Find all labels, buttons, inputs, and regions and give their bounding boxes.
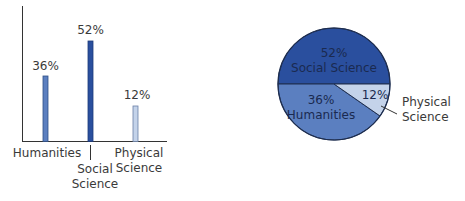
bar-humanities [43,76,48,142]
pie-value-physical-science: 12% [362,88,389,102]
pie-label-physical-line1: Physical [402,95,451,109]
bar-label-humanities: Humanities [13,146,81,160]
pie-value-social-science: 52% [321,46,348,60]
bar-chart: 36% 52% 12% Humanities Social Science Ph… [13,6,167,191]
bar-physical-science [133,106,138,142]
pie-value-humanities: 36% [308,93,335,107]
bar-label-social-line2: Science [72,177,119,191]
bar-label-physical-line2: Science [116,161,163,175]
bar-social-science [88,41,93,142]
pie-label-humanities: Humanities [287,108,355,122]
bar-value-humanities: 36% [32,59,59,73]
pie-chart: 52% Social Science 36% Humanities 12% Ph… [278,28,451,140]
bar-label-physical-line1: Physical [115,146,164,160]
pie-label-social-science: Social Science [291,61,377,75]
chart-canvas: 36% 52% 12% Humanities Social Science Ph… [0,0,465,201]
bar-label-social-line1: Social [77,162,113,176]
pie-label-physical-line2: Science [402,110,449,124]
bar-value-social-science: 52% [77,23,104,37]
bar-value-physical-science: 12% [124,88,151,102]
